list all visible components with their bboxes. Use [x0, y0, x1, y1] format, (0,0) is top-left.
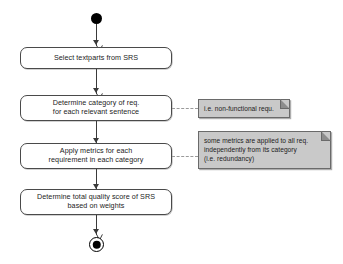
arrowhead-select-to-category [93, 88, 99, 93]
activity-determine-score[interactable]: Determine total quality score of SRS bas… [20, 189, 172, 215]
arrowhead-score-to-final [93, 229, 99, 234]
activity-apply-metrics[interactable]: Apply metrics for each requirement in ea… [20, 143, 172, 169]
arrowhead-initial-to-select [93, 40, 99, 45]
activity-determine-score-label: Determine total quality score of SRS bas… [34, 193, 158, 211]
activity-select-textparts[interactable]: Select textparts from SRS [20, 47, 172, 69]
final-node-core [92, 240, 101, 249]
note-category: i.e. non-functional requ. [198, 99, 290, 118]
activity-diagram-canvas: Select textparts from SRS Determine cate… [0, 0, 343, 264]
activity-apply-metrics-label: Apply metrics for each requirement in ea… [46, 147, 147, 165]
note-metrics: some metrics are applied to all req. ind… [198, 131, 331, 169]
final-node [89, 237, 104, 252]
note-link-category [172, 108, 198, 109]
note-metrics-text: some metrics are applied to all req. ind… [204, 136, 326, 163]
activity-determine-category[interactable]: Determine category of req. for each rele… [20, 95, 172, 121]
note-category-text: i.e. non-functional requ. [204, 104, 285, 113]
activity-select-textparts-label: Select textparts from SRS [51, 54, 141, 63]
note-link-metrics [172, 156, 198, 157]
note-fold-corner-icon [321, 131, 331, 141]
activity-determine-category-label: Determine category of req. for each rele… [50, 99, 143, 117]
note-fold-corner-icon [280, 99, 290, 109]
initial-node [91, 13, 102, 24]
